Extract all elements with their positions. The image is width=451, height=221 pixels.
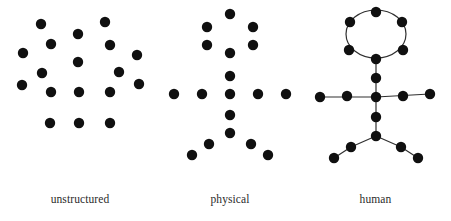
entity-dot (371, 73, 381, 83)
entity-dot (329, 153, 339, 163)
entity-dot (315, 92, 325, 102)
panel-unstructured-nonhuman-entities: unstructured nonhuman entities (0, 0, 160, 221)
figure-root: unstructured nonhuman entities physical … (0, 0, 451, 221)
entity-dot (253, 89, 263, 99)
dot-field-human (300, 0, 451, 168)
entity-dot (18, 48, 28, 58)
entity-dot (398, 45, 408, 55)
dot-diagram-physical (160, 0, 300, 168)
entity-dot (398, 91, 408, 101)
dot-diagram-human (300, 0, 451, 168)
entity-dot (187, 150, 197, 160)
entity-dot (371, 54, 381, 64)
entity-dot (105, 40, 115, 50)
entity-dot (225, 110, 235, 120)
entity-dot (202, 22, 212, 32)
entity-dot (202, 40, 212, 50)
entity-dot (197, 89, 207, 99)
entity-dot (225, 48, 235, 58)
entity-dot (105, 118, 115, 128)
entity-dot (73, 29, 83, 39)
entity-dot (246, 139, 256, 149)
head-ellipse (346, 10, 406, 58)
entity-dot (114, 67, 124, 77)
entity-dot (46, 39, 56, 49)
entity-dot (204, 139, 214, 149)
entity-dot (263, 150, 273, 160)
panel-human-structure: human structure (300, 0, 451, 221)
dot-diagram-unstructured (0, 0, 160, 168)
entity-dot (225, 71, 235, 81)
entity-dot (169, 89, 179, 99)
entity-dot (346, 142, 356, 152)
entity-dot (100, 17, 110, 27)
entity-dot (46, 87, 56, 97)
entity-dot (396, 142, 406, 152)
entity-dot (344, 45, 354, 55)
entity-dot (45, 118, 55, 128)
caption-unstructured: unstructured nonhuman entities (0, 176, 160, 221)
entity-dot (248, 40, 258, 50)
dot-field-unstructured (0, 0, 160, 168)
panel-physical-structure: physical structure (160, 0, 300, 221)
entity-dot (134, 79, 144, 89)
caption-human: human structure (300, 176, 451, 221)
entity-dot (371, 131, 381, 141)
entity-dot (37, 68, 47, 78)
entity-dot (281, 89, 291, 99)
entity-dot (73, 57, 83, 67)
dot-field-physical (160, 0, 300, 168)
entity-dot (371, 7, 381, 17)
entity-dot (342, 91, 352, 101)
entity-dot (225, 128, 235, 138)
entity-dot (397, 17, 407, 27)
entity-dot (105, 87, 115, 97)
entity-dot (413, 153, 423, 163)
entity-dot (36, 19, 46, 29)
caption-line-1: unstructured (0, 192, 160, 208)
entity-dot (425, 89, 435, 99)
caption-physical: physical structure (160, 176, 300, 221)
entity-dot (74, 87, 84, 97)
entity-dot (225, 9, 235, 19)
caption-line-1: human (300, 192, 451, 208)
entity-dot (17, 80, 27, 90)
entity-dot (371, 92, 381, 102)
entity-dot (74, 118, 84, 128)
caption-line-1: physical (160, 192, 300, 208)
entity-dot (248, 22, 258, 32)
entity-dot (371, 112, 381, 122)
entity-dot (345, 17, 355, 27)
entity-dot (132, 50, 142, 60)
entity-dot (225, 89, 235, 99)
